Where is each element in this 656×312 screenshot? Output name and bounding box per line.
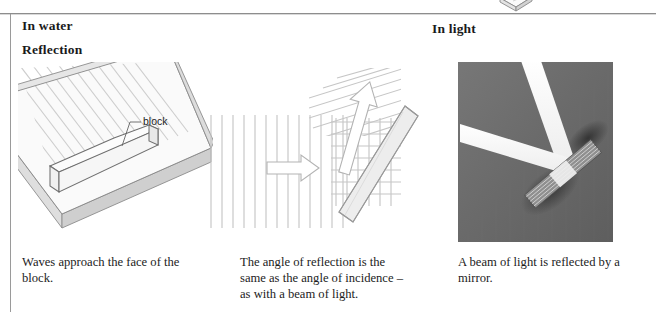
caption-line: same as the angle of incidence – <box>240 270 430 286</box>
left-vertical-rule <box>10 14 11 312</box>
light-mirror-photograph <box>458 62 613 242</box>
top-horizontal-rule-shadow <box>0 14 656 15</box>
caption-line: as with a beam of light. <box>240 286 430 302</box>
caption-beam-reflected-by-mirror: A beam of light is reflected by a mirror… <box>458 254 648 286</box>
top-clipped-block-illustration <box>496 0 536 12</box>
caption-waves-approach: Waves approach the face of the block. <box>22 254 218 286</box>
wave-reflection-diagram <box>205 60 420 240</box>
heading-in-water: In water <box>22 18 73 34</box>
caption-line: mirror. <box>458 270 648 286</box>
ripple-tank-diagram: block <box>18 62 213 240</box>
caption-angle-of-reflection: The angle of reflection is the same as t… <box>240 254 430 302</box>
caption-line: block. <box>22 270 218 286</box>
heading-in-light: In light <box>432 21 476 37</box>
caption-line: Waves approach the face of the <box>22 254 218 270</box>
caption-line: A beam of light is reflected by a <box>458 254 648 270</box>
figure-page: In water Reflection In light <box>0 0 656 312</box>
heading-reflection: Reflection <box>22 42 82 58</box>
caption-line: The angle of reflection is the <box>240 254 430 270</box>
block-annotation-label: block <box>143 115 168 127</box>
